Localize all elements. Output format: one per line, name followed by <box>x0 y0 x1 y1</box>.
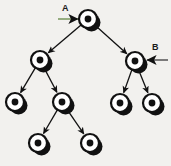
tree-graphics <box>0 0 171 166</box>
node-group <box>6 10 165 156</box>
node-left-right-right[interactable] <box>81 134 103 156</box>
edge-root-right <box>94 24 127 53</box>
annotation-label-b: B <box>152 43 159 52</box>
edge-left-ll <box>21 67 36 93</box>
edge-root-left <box>48 24 82 53</box>
edge-group <box>21 24 148 134</box>
edge-right-rl <box>124 69 133 93</box>
node-right-left[interactable] <box>111 94 133 116</box>
node-left-right-left[interactable] <box>29 134 51 156</box>
tree-diagram-figure: A B <box>0 0 171 166</box>
node-right[interactable] <box>126 52 148 74</box>
annotation-group <box>58 19 168 60</box>
node-right-right[interactable] <box>143 94 165 116</box>
node-left-left[interactable] <box>6 93 28 115</box>
node-root[interactable] <box>79 10 101 32</box>
edge-lr-lrl <box>44 109 58 134</box>
annotation-label-a: A <box>62 4 69 13</box>
